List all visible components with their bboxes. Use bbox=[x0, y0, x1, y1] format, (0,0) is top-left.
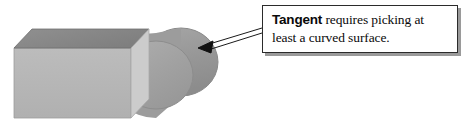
callout-term: Tangent bbox=[272, 12, 322, 27]
callout-text: Tangent requires picking at least a curv… bbox=[272, 11, 451, 47]
leader-arrow-line-upper bbox=[206, 28, 262, 45]
tangent-figure: Tangent requires picking at least a curv… bbox=[0, 0, 472, 126]
box-front-face bbox=[14, 48, 131, 118]
box-shape bbox=[14, 29, 149, 118]
callout-box: Tangent requires picking at least a curv… bbox=[262, 5, 458, 53]
box-top-face bbox=[14, 29, 149, 48]
